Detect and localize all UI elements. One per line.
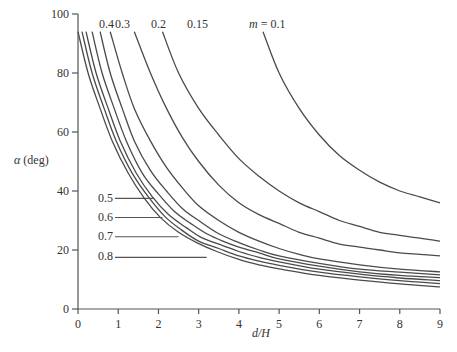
curve-0.7	[82, 32, 440, 284]
x-tick-label: 4	[236, 317, 242, 331]
y-ticks: 020406080100	[51, 7, 78, 316]
x-tick-label: 1	[115, 317, 121, 331]
y-tick-label: 60	[57, 125, 69, 139]
curve-label-0.1: m = 0.1	[249, 17, 285, 31]
chart: 020406080100 0123456789 α (deg) d/H 0.4 …	[0, 0, 457, 352]
curve-label-0.5: 0.5	[98, 191, 113, 205]
y-tick-label: 20	[57, 243, 69, 257]
x-tick-label: 2	[155, 317, 161, 331]
curve-0.4	[100, 32, 440, 275]
curve-label-0.3: 0.3	[115, 17, 130, 31]
curve-0.1	[263, 32, 440, 203]
curve-0.8	[78, 32, 440, 287]
curve-label-0.6: 0.6	[98, 210, 113, 224]
y-tick-label: 40	[57, 184, 69, 198]
x-tick-label: 0	[75, 317, 81, 331]
curve-0.3	[110, 32, 440, 272]
curve-label-0.2: 0.2	[151, 17, 166, 31]
y-tick-label: 80	[57, 66, 69, 80]
x-tick-label: 7	[357, 317, 363, 331]
curve-0.5	[92, 32, 440, 278]
curve-label-0.8: 0.8	[98, 249, 113, 263]
x-tick-label: 9	[437, 317, 443, 331]
x-tick-label: 5	[276, 317, 282, 331]
x-axis-label: d/H	[252, 326, 271, 340]
curve-label-0.7: 0.7	[98, 229, 113, 243]
curve-0.2	[134, 32, 440, 256]
x-tick-label: 8	[397, 317, 403, 331]
curves	[78, 32, 440, 287]
y-axis-label: α (deg)	[14, 153, 49, 167]
x-tick-label: 3	[196, 317, 202, 331]
y-tick-label: 100	[51, 7, 69, 21]
y-tick-label: 0	[63, 302, 69, 316]
curve-label-0.4: 0.4	[99, 17, 114, 31]
curve-label-0.15: 0.15	[187, 17, 208, 31]
x-tick-label: 6	[316, 317, 322, 331]
